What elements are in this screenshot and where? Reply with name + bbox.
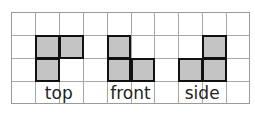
view-front-square bbox=[131, 58, 156, 82]
view-label-side: side bbox=[178, 82, 226, 104]
view-side-square bbox=[178, 58, 203, 82]
view-front-square bbox=[107, 58, 132, 82]
view-label-top: top bbox=[35, 82, 83, 104]
view-top-square bbox=[35, 35, 60, 59]
view-top-square bbox=[35, 58, 60, 82]
view-top-square bbox=[59, 35, 84, 59]
view-label-front: front bbox=[107, 82, 155, 104]
view-front-square bbox=[107, 35, 132, 59]
view-side-square bbox=[202, 35, 227, 59]
view-side-square bbox=[202, 58, 227, 82]
